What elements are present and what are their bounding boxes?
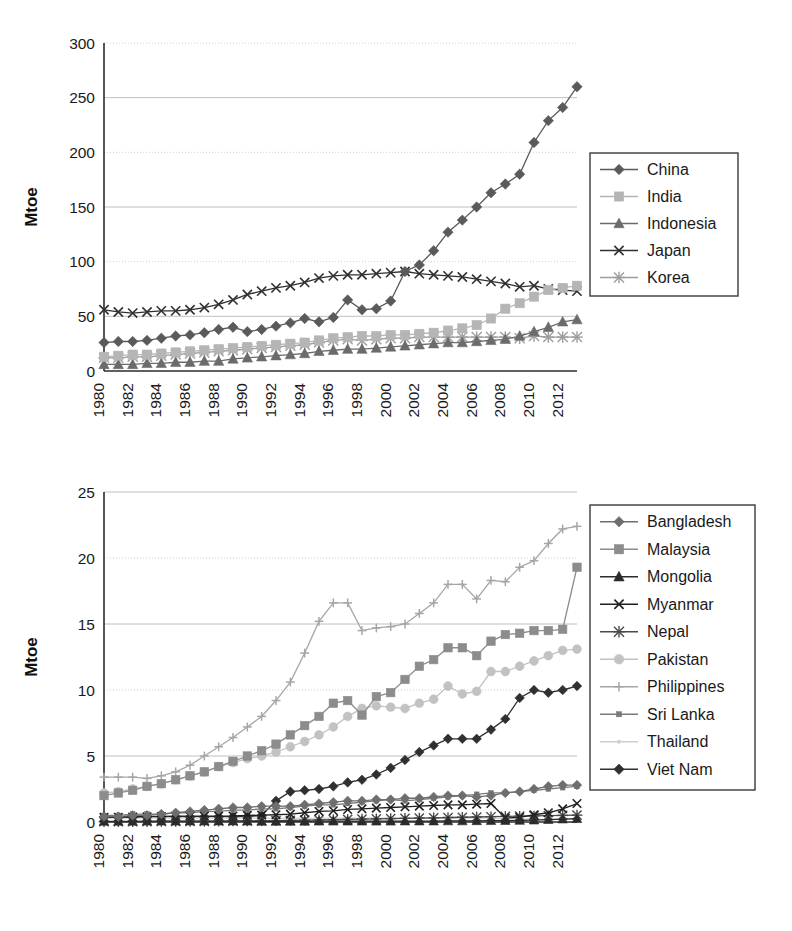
x-tick-label: 2004 [434,383,451,418]
x-tick-label: 1986 [176,834,193,868]
legend-label: Sri Lanka [647,706,715,723]
x-tick-label: 2012 [549,383,566,417]
y-tick-label: 100 [69,253,95,270]
legend-label: Korea [647,269,690,286]
bottom-chart-panel: 0510152025Mtoe19801982198419861988199019… [0,465,792,931]
y-tick-labels: 0510152025 [78,484,96,831]
x-tick-label: 1980 [90,383,107,418]
x-tick-label: 1986 [176,383,193,417]
series-philippines [100,522,582,783]
x-tick-label: 2008 [491,383,508,417]
x-tick-label: 1982 [119,834,136,868]
legend-label: Mongolia [647,568,712,585]
x-tick-label: 2002 [405,834,422,868]
top-chart-svg: 050100150200250300Mtoe198019821984198619… [0,0,792,465]
x-tick-label: 1984 [147,383,164,418]
x-tick-label: 1994 [291,834,308,869]
x-tick-label: 1998 [348,834,365,868]
legend-label: Thailand [647,733,708,750]
x-tick-label: 1996 [319,834,336,868]
x-tick-label: 1992 [262,383,279,417]
legend-label: Nepal [647,623,689,640]
series-line [104,286,577,357]
legend-label: Viet Nam [647,761,713,778]
y-tick-label: 0 [86,363,95,380]
y-tick-label: 5 [86,748,95,765]
legend-label: Bangladesh [647,513,732,530]
x-tick-label: 2000 [377,834,394,869]
x-tick-label: 2000 [377,383,394,418]
y-tick-label: 20 [78,550,96,567]
y-axis-title: Mtoe [22,637,41,677]
legend-label: Indonesia [647,215,716,232]
legend-label: Japan [647,242,691,259]
legend: ChinaIndiaIndonesiaJapanKorea [590,153,738,296]
y-axis-title: Mtoe [22,187,41,227]
top-chart-panel: 050100150200250300Mtoe198019821984198619… [0,0,792,465]
x-tick-label: 1998 [348,383,365,417]
x-tick-label: 1990 [233,383,250,418]
legend-label: India [647,188,682,205]
y-tick-labels: 050100150200250300 [69,35,95,380]
legend-label: Malaysia [647,541,710,558]
series-line [104,567,577,795]
y-tick-label: 250 [69,89,95,106]
series-group [99,522,583,827]
series-pakistan [100,645,582,798]
legend-label: China [647,161,689,178]
x-tick-label: 1994 [291,383,308,418]
legend-label: Philippines [647,678,724,695]
legend: BangladeshMalaysiaMongoliaMyanmarNepalPa… [590,505,755,790]
y-tick-label: 50 [78,308,96,325]
x-tick-label: 2010 [520,383,537,418]
x-tick-label: 2010 [520,834,537,869]
x-tick-label: 2006 [463,834,480,868]
y-tick-label: 0 [86,814,95,831]
series-indonesia [99,314,582,368]
bottom-chart-svg: 0510152025Mtoe19801982198419861988199019… [0,465,792,931]
x-tick-label: 2008 [491,834,508,868]
y-tick-label: 15 [78,616,95,633]
legend-label: Myanmar [647,596,714,613]
y-tick-label: 25 [78,484,95,501]
x-tick-label: 2002 [405,383,422,417]
x-tick-label: 1984 [147,834,164,869]
x-tick-labels: 1980198219841986198819901992199419961998… [90,383,566,418]
y-tick-label: 10 [78,682,96,699]
x-tick-label: 1988 [205,834,222,868]
x-tick-label: 1996 [319,383,336,417]
x-tick-label: 1988 [205,383,222,417]
legend-label: Pakistan [647,651,708,668]
x-tick-label: 1990 [233,834,250,869]
x-tick-label: 1980 [90,834,107,869]
x-tick-label: 2012 [549,834,566,868]
series-group [98,82,583,369]
x-tick-label: 2006 [463,383,480,417]
y-tick-label: 150 [69,199,95,216]
x-tick-label: 1992 [262,834,279,868]
series-malaysia [100,563,581,800]
y-tick-label: 200 [69,144,95,161]
y-tick-label: 300 [69,35,95,52]
series-bangladesh [99,780,582,821]
x-tick-labels: 1980198219841986198819901992199419961998… [90,834,566,869]
x-tick-label: 1982 [119,383,136,417]
series-line [104,526,577,778]
x-tick-label: 2004 [434,834,451,869]
